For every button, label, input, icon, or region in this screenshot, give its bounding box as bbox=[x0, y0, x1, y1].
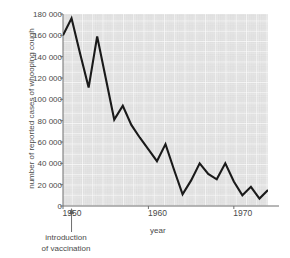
x-tick-label: 1970 bbox=[233, 208, 252, 218]
x-axis-tick-labels: 195019601970 bbox=[0, 206, 290, 220]
x-tick-label: 1950 bbox=[63, 208, 82, 218]
vaccination-annotation: introduction of vaccination bbox=[6, 232, 126, 254]
x-axis-title: year bbox=[150, 226, 166, 235]
annotation-line-1: introduction bbox=[6, 232, 126, 243]
annotation-line-2: of vaccination bbox=[6, 243, 126, 254]
chart-figure: number of reported cases of whooping cou… bbox=[0, 0, 290, 258]
x-tick-label: 1960 bbox=[148, 208, 167, 218]
plot-background bbox=[63, 14, 268, 206]
